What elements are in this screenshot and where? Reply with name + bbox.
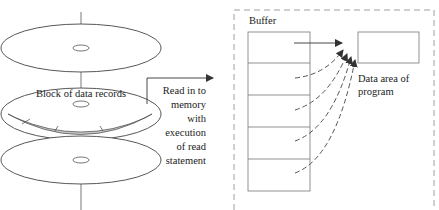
program-area-label-1: Data area of <box>358 73 410 84</box>
svg-text:with: with <box>187 113 206 124</box>
disk-platter-bottom <box>1 136 161 184</box>
svg-text:of read: of read <box>177 141 207 152</box>
buffer <box>248 32 310 191</box>
disk-platter-middle: Block of data records <box>1 88 161 140</box>
buffer-title: Buffer <box>249 15 277 26</box>
svg-text:execution: execution <box>165 127 207 138</box>
program-data-area <box>358 32 419 63</box>
svg-text:Read in to: Read in to <box>163 85 206 96</box>
diagram-canvas: Block of data records Read in to memory … <box>0 0 439 210</box>
block-label: Block of data records <box>36 88 126 99</box>
svg-text:statement: statement <box>166 155 206 166</box>
program-area-label-2: program <box>358 86 394 97</box>
transfer-label: Read in to memory with execution of read… <box>163 85 207 166</box>
svg-text:memory: memory <box>171 99 207 110</box>
disk-platter-top <box>1 24 161 72</box>
